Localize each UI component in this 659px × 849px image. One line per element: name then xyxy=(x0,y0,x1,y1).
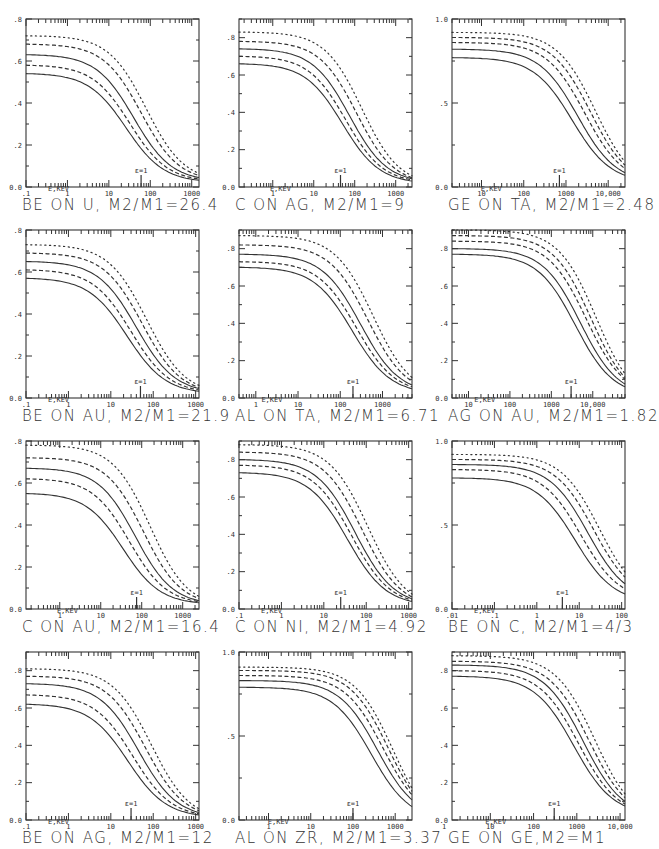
plot-area: 0.0.51.0.01.1110100E,KEVε=1 xyxy=(426,429,639,627)
y-tick-label: .8 xyxy=(14,227,22,235)
series-curve-1-dotted xyxy=(239,32,412,176)
y-tick-label: .4 xyxy=(227,109,235,117)
plot-frame xyxy=(452,19,625,187)
y-tick-label: .4 xyxy=(14,522,22,530)
series-curve-5-solid xyxy=(239,687,412,806)
chart-caption: BE ON C, M2/M1=4/3 xyxy=(448,618,634,636)
epsilon-marker-label: ε=1 xyxy=(334,167,347,175)
plot-area: 0.0.2.4.6.8.11101001000E,KEVε=1 xyxy=(213,429,426,627)
x-axis-label: E,KEV xyxy=(261,396,283,404)
series-curve-2-dashed xyxy=(452,460,625,578)
y-tick-label: .5 xyxy=(227,733,235,741)
plot-area: 0.0.2.4.6.8.11101001000E,KEVε=1 xyxy=(0,640,213,838)
y-tick-label: .6 xyxy=(227,72,235,80)
y-tick-label: .6 xyxy=(14,58,22,66)
chart-panel-p6: 0.0.2.4.6.810100100010,000E,KEVε=1AG ON … xyxy=(426,218,639,431)
chart-caption: AG ON AU, M2/M1=1.82 xyxy=(448,407,659,425)
chart-caption: AL ON TA, M2/M1=6.71 xyxy=(235,407,440,425)
series-curve-1-dotted xyxy=(26,445,199,596)
x-axis-label: E,KEV xyxy=(474,396,496,404)
series-curve-5-solid xyxy=(452,254,625,386)
x-axis-label: E,KEV xyxy=(481,185,503,193)
series-curve-3-dashed xyxy=(452,241,625,379)
chart-panel-p4: 0.0.2.4.6.8.11101001000E,KEVε=1BE ON AU,… xyxy=(0,218,213,431)
y-tick-label: 0.0 xyxy=(9,817,22,825)
series-curve-3-solid xyxy=(239,460,412,599)
series-curve-2-dashed xyxy=(26,253,199,387)
plot-frame xyxy=(26,652,199,820)
chart-caption: BE ON U, M2/M1=26.4 xyxy=(22,196,219,214)
series-curve-4-dashed xyxy=(452,470,625,589)
series-curve-1-dotted xyxy=(452,32,625,161)
y-tick-label: .4 xyxy=(14,742,22,750)
series-curve-4-solid xyxy=(452,249,625,384)
epsilon-marker-label: ε=1 xyxy=(135,167,148,175)
series-curve-2-dashed xyxy=(452,38,625,166)
plot-frame xyxy=(26,441,199,609)
y-tick-label: .6 xyxy=(227,494,235,502)
epsilon-marker-label: ε=1 xyxy=(548,800,561,808)
y-tick-label: .4 xyxy=(14,100,22,108)
chart-caption: C ON NI, M2/M1=4.92 xyxy=(235,618,428,636)
y-tick-label: 0.0 xyxy=(222,395,235,403)
chart-panel-p11: 0.0.51.01101001000E,KEVε=1AL ON ZR, M2/M… xyxy=(213,640,426,849)
chart-caption: GE ON TA, M2/M1=2.48 xyxy=(448,196,655,214)
plot-area: 0.0.2.4.6.81101001000E,KEVε=1 xyxy=(213,218,426,416)
series-curve-4-dashed xyxy=(239,262,412,387)
y-tick-label: .4 xyxy=(440,320,448,328)
plot-area: 0.0.2.4.6.8110100100010,000E,KEVε=1 xyxy=(426,640,639,838)
y-tick-label: .5 xyxy=(440,522,448,530)
y-tick-label: .6 xyxy=(440,283,448,291)
y-tick-label: .8 xyxy=(227,456,235,464)
x-axis-label: E,KEV xyxy=(48,818,70,826)
series-curve-1-dotted xyxy=(452,454,625,572)
plot-area: 0.0.2.4.6.81101001000E,KEVε=1 xyxy=(0,429,213,627)
epsilon-marker-label: ε=1 xyxy=(130,589,143,597)
y-tick-label: .2 xyxy=(14,142,22,150)
y-tick-label: .5 xyxy=(440,100,448,108)
epsilon-marker-label: ε=1 xyxy=(134,378,147,386)
series-curve-5-solid xyxy=(26,494,199,603)
y-tick-label: 0.0 xyxy=(222,817,235,825)
chart-panel-p1: 0.0.2.4.6.8.11101001000E,KEVε=1BE ON U, … xyxy=(0,7,213,220)
x-axis-label: E,KEV xyxy=(57,607,79,615)
plot-frame xyxy=(452,441,625,609)
x-axis-label: E,KEV xyxy=(485,818,507,826)
series-curve-5-solid xyxy=(452,58,625,176)
series-curve-2-dashed xyxy=(239,41,412,177)
y-tick-label: .8 xyxy=(14,16,22,24)
y-tick-label: .6 xyxy=(14,269,22,277)
x-tick-label: 10,000 xyxy=(607,823,632,831)
y-tick-label: .2 xyxy=(14,779,22,787)
plot-frame xyxy=(239,441,412,609)
chart-panel-p7: 0.0.2.4.6.81101001000E,KEVε=1C ON AU, M2… xyxy=(0,429,213,642)
y-tick-label: .4 xyxy=(227,531,235,539)
plot-area: 0.0.2.4.6.8.11101001000E,KEVε=1 xyxy=(0,218,213,416)
series-curve-5-solid xyxy=(452,676,625,806)
plot-area: 0.0.2.4.6.810100100010,000E,KEVε=1 xyxy=(426,218,639,416)
y-tick-label: .2 xyxy=(227,568,235,576)
x-tick-label: 1 xyxy=(442,823,446,831)
series-curve-4-dashed xyxy=(26,695,199,814)
series-curve-2-dashed xyxy=(26,458,199,599)
series-curve-3-solid xyxy=(239,49,412,179)
epsilon-marker-label: ε=1 xyxy=(565,378,578,386)
plot-area: 0.0.2.4.6.81101001000E,KEVε=1 xyxy=(213,7,426,205)
series-curve-4-dashed xyxy=(239,56,412,180)
y-tick-label: .6 xyxy=(227,283,235,291)
series-curve-5-solid xyxy=(239,64,412,181)
x-axis-label: E,KEV xyxy=(261,607,283,615)
series-curve-1-dotted xyxy=(452,656,625,794)
series-curve-2-dashed xyxy=(452,661,625,797)
chart-panel-p2: 0.0.2.4.6.81101001000E,KEVε=1C ON AG, M2… xyxy=(213,7,426,220)
series-curve-5-solid xyxy=(26,278,199,391)
chart-caption: C ON AU, M2/M1=16.4 xyxy=(22,618,220,636)
chart-caption: BE ON AG, M2/M1=12 xyxy=(22,829,214,847)
chart-caption: GE ON GE,M2=M1 xyxy=(448,829,606,847)
plot-frame xyxy=(239,19,412,187)
epsilon-marker-label: ε=1 xyxy=(553,167,566,175)
y-tick-label: 1.0 xyxy=(435,438,448,446)
y-tick-label: .8 xyxy=(227,245,235,253)
epsilon-marker-label: ε=1 xyxy=(347,800,360,808)
y-tick-label: .4 xyxy=(14,311,22,319)
